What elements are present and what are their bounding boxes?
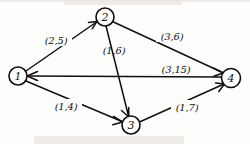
node-label: 2 — [101, 11, 109, 24]
edge-label-2-4: (3,6) — [156, 29, 189, 42]
node-3[interactable]: 3 — [122, 116, 140, 134]
node-1[interactable]: 1 — [9, 67, 27, 85]
edge-label-2-3: (1,6) — [103, 45, 126, 56]
graph-figure: (2,5) (1,6) (3,6) (3,15) (1,4) (1,7) — [0, 0, 250, 144]
edge-label-1-3: (1,4) — [50, 99, 82, 112]
edge-label-text: (1,4) — [55, 101, 78, 112]
edge-label-1-2: (2,5) — [40, 33, 72, 46]
graph-canvas: (2,5) (1,6) (3,6) (3,15) (1,4) (1,7) — [0, 0, 250, 144]
edge-label-text: (3,15) — [162, 64, 191, 75]
node-label: 4 — [227, 72, 235, 85]
edge-label-text: (1,6) — [103, 45, 126, 56]
edge-label-3-4: (1,7) — [171, 100, 203, 113]
node-label: 1 — [15, 70, 22, 83]
edge-labels-layer: (2,5) (1,6) (3,6) (3,15) (1,4) (1,7) — [40, 29, 203, 113]
edge-label-text: (2,5) — [45, 35, 68, 46]
edge-1-2 — [26, 22, 97, 71]
edge-label-4-1: (3,15) — [157, 62, 196, 75]
node-4[interactable]: 4 — [222, 69, 241, 88]
edge-label-text: (3,6) — [161, 31, 184, 42]
node-label: 3 — [128, 119, 135, 132]
edge-2-3 — [106, 26, 129, 117]
node-2[interactable]: 2 — [96, 8, 114, 26]
edge-label-text: (1,7) — [176, 102, 199, 113]
